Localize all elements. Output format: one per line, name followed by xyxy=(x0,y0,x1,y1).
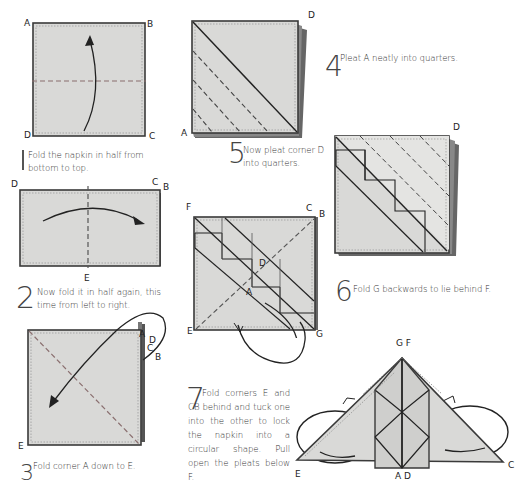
corner-label-f: F xyxy=(186,202,191,212)
corner-label-c: C xyxy=(306,203,312,213)
corner-label-a: A xyxy=(24,18,30,28)
corner-label-d: D xyxy=(24,130,31,140)
corner-label-e: E xyxy=(295,469,301,479)
napkin-diagonal-fold-illustration xyxy=(15,310,175,455)
napkin-double-pleated-illustration xyxy=(325,118,475,263)
corner-label-c: C xyxy=(147,343,153,353)
step-5-diagram: D xyxy=(325,118,475,263)
step-2-number: 2 xyxy=(16,283,35,313)
step-6-number: 6 xyxy=(335,278,353,306)
napkin-cone-illustration xyxy=(295,332,519,481)
napkin-triangle-fold-illustration xyxy=(180,203,330,338)
step-2-caption: Now fold it in half again, this time fro… xyxy=(37,286,161,312)
corner-label-d: D xyxy=(453,122,460,132)
corner-label-d: D xyxy=(308,10,315,20)
step-7-caption: Fold corners E and CB behind and tuck on… xyxy=(188,386,290,481)
corner-label-b: B xyxy=(163,182,169,192)
step-3-diagram: A D C B E xyxy=(15,310,175,455)
corner-label-d: D xyxy=(11,179,18,189)
corner-label-b: B xyxy=(319,209,325,219)
napkin-rectangle-illustration xyxy=(8,178,173,273)
corner-label-b: B xyxy=(155,352,161,362)
corner-label-c: C xyxy=(508,460,514,470)
step-4-caption: Pleat A neatly into quarters. xyxy=(340,52,515,65)
corner-label-b: B xyxy=(147,19,153,29)
corner-label-a: A xyxy=(139,329,145,339)
step-6-caption: Fold G backwards to lie behind F. xyxy=(353,283,518,296)
napkin-pleated-illustration xyxy=(180,8,320,143)
corner-label-a: A xyxy=(181,128,187,138)
corner-label-gf: G F xyxy=(396,338,411,348)
corner-label-d: D xyxy=(259,258,266,268)
step-2-diagram: D C B E xyxy=(8,178,173,288)
corner-label-e: E xyxy=(84,273,90,283)
step-7-diagram: G F E A D C xyxy=(295,332,519,481)
corner-label-c: C xyxy=(149,131,155,141)
step-3-caption: Fold corner A down to E. xyxy=(33,460,173,473)
step-1-caption: Fold the napkin in half from bottom to t… xyxy=(28,149,160,175)
step-1-diagram: A B C D xyxy=(22,18,157,143)
step-3-number: 3 xyxy=(20,462,34,481)
corner-label-c: C xyxy=(152,177,158,187)
corner-label-ad: A D xyxy=(395,471,411,481)
napkin-square-illustration xyxy=(22,18,157,143)
step-1-number xyxy=(22,150,24,170)
step-6-diagram: F C B D A E G xyxy=(180,203,330,338)
step-4-diagram: D A xyxy=(180,8,320,143)
step-5-caption: Now pleat corner D into quarters. xyxy=(243,144,328,170)
corner-label-e: E xyxy=(18,441,24,451)
corner-label-a: A xyxy=(246,287,252,297)
